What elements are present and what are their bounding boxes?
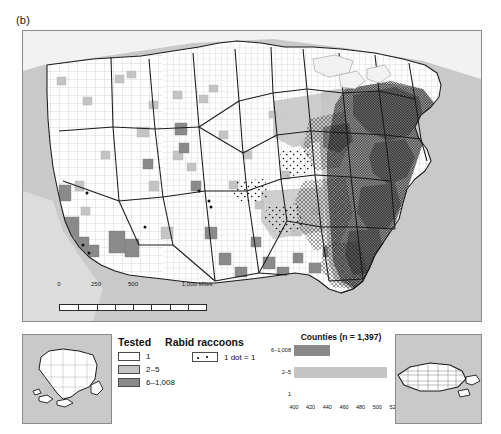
chart-bar-6-1008 — [294, 345, 330, 356]
chart-bar-2-5 — [294, 367, 387, 378]
puerto-rico-inset — [395, 334, 482, 424]
legend-dot-swatch — [192, 352, 218, 362]
legend-dot-class: 1 dot = 1 — [192, 352, 255, 362]
chart-x-axis: 400 420 440 460 480 500 520 — [294, 403, 394, 415]
chart-xtick-480: 480 — [356, 404, 365, 410]
legend-label-1: 1 — [146, 352, 150, 361]
puerto-rico-map-svg — [396, 335, 481, 423]
chart-ylabel-1: 1 — [288, 389, 291, 400]
scale-tick-250: 250 — [91, 281, 101, 287]
chart-title: Counties (n = 1,397) — [286, 332, 396, 342]
legend-class-1: 1 — [118, 352, 178, 361]
legend-label-2-5: 2–5 — [146, 365, 159, 374]
alaska-map-svg — [23, 335, 111, 423]
map-legend: Tested Rabid raccoons 1 2–5 6–1,008 — [118, 336, 268, 387]
map-canvas — [23, 31, 481, 321]
scale-tick-1000: 1,000 Miles — [182, 281, 213, 287]
counties-bar-chart: Counties (n = 1,397) 6–1,008 2–5 1 400 4… — [274, 332, 396, 424]
chart-xtick-460: 460 — [339, 404, 348, 410]
scale-bar-track — [59, 304, 207, 311]
main-map: 0 250 500 1,000 Miles — [22, 30, 482, 322]
legend-swatch-2-5 — [118, 365, 140, 374]
scale-tick-0: 0 — [57, 281, 60, 287]
scale-bar: 0 250 500 1,000 Miles — [59, 294, 207, 311]
legend-title-tested: Tested — [118, 336, 151, 348]
legend-swatch-1 — [118, 352, 140, 361]
alaska-inset — [22, 334, 112, 424]
usa-map-svg — [23, 31, 481, 321]
legend-label-6-1008: 6–1,008 — [146, 378, 175, 387]
chart-plot-area: 6–1,008 2–5 1 — [294, 345, 394, 403]
chart-xtick-500: 500 — [373, 404, 382, 410]
panel-label: (b) — [16, 14, 30, 26]
legend-dot-label: 1 dot = 1 — [224, 353, 255, 362]
legend-class-6-1008: 6–1,008 — [118, 378, 178, 387]
chart-xtick-400: 400 — [289, 404, 298, 410]
chart-bar-1 — [294, 389, 295, 400]
legend-title-rabid: Rabid raccoons — [165, 336, 244, 348]
chart-ylabel-2-5: 2–5 — [282, 367, 291, 378]
chart-xtick-420: 420 — [306, 404, 315, 410]
chart-xtick-440: 440 — [323, 404, 332, 410]
scale-bar-labels: 0 250 500 1,000 Miles — [59, 294, 207, 304]
bottom-row: Tested Rabid raccoons 1 2–5 6–1,008 — [22, 330, 480, 428]
scale-tick-500: 500 — [128, 281, 138, 287]
legend-class-2-5: 2–5 — [118, 365, 178, 374]
chart-ylabel-6-1008: 6–1,008 — [271, 345, 291, 356]
legend-swatch-6-1008 — [118, 378, 140, 387]
